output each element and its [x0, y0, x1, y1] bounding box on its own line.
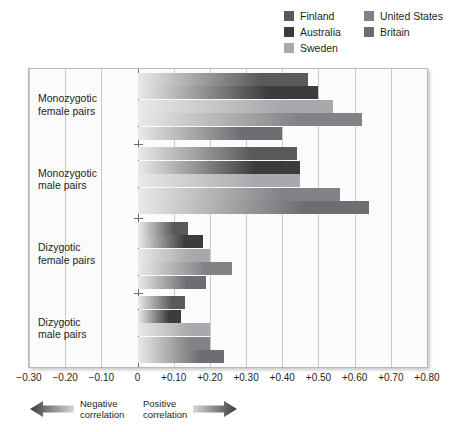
x-tick-label: +0.60 [342, 372, 367, 383]
legend-label: United States [380, 11, 443, 21]
x-tick-label: +0.20 [197, 372, 222, 383]
bar-finland-0 [138, 73, 308, 86]
category-label-line: Monozygotic [38, 167, 130, 180]
category-label-3: Dizygoticmale pairs [38, 316, 130, 341]
bar-finland-2 [138, 222, 189, 235]
positive-correlation-annotation: Positive correlation [143, 398, 237, 420]
x-tick-label: 0 [135, 372, 141, 383]
left-arrow-icon [30, 400, 74, 418]
group-separator-tick [134, 144, 143, 145]
negative-correlation-text: Negative correlation [80, 398, 124, 420]
x-tick-label: +0.50 [306, 372, 331, 383]
category-label-line: male pairs [38, 328, 130, 341]
bar-united-states-0 [138, 113, 362, 126]
legend-swatch-icon [364, 11, 374, 21]
legend-item-britain: Britain [364, 24, 451, 40]
legend-label: Australia [300, 27, 341, 37]
legend-item-sweden: Sweden [284, 40, 350, 56]
bar-australia-3 [138, 310, 181, 323]
x-tick-label: +0.10 [161, 372, 186, 383]
category-label-line: male pairs [38, 179, 130, 192]
legend-item-united-states: United States [364, 8, 451, 24]
bar-britain-2 [138, 276, 207, 289]
bar-united-states-2 [138, 262, 232, 275]
category-label-line: Dizygotic [38, 241, 130, 254]
legend-label: Britain [380, 27, 410, 37]
negative-correlation-annotation: Negative correlation [30, 398, 124, 420]
category-label-2: Dizygoticfemale pairs [38, 241, 130, 266]
x-tick-label: −0.10 [89, 372, 114, 383]
bar-australia-1 [138, 161, 301, 174]
x-tick-label: +0.40 [270, 372, 295, 383]
bar-finland-3 [138, 296, 185, 309]
bar-britain-3 [138, 350, 225, 363]
bar-sweden-0 [138, 100, 333, 113]
legend-item-finland: Finland [284, 8, 350, 24]
bar-sweden-3 [138, 323, 210, 336]
category-label-line: female pairs [38, 105, 130, 118]
group-separator-tick [134, 293, 143, 294]
right-arrow-icon [193, 400, 237, 418]
category-label-1: Monozygoticmale pairs [38, 167, 130, 192]
category-label-0: Monozygoticfemale pairs [38, 92, 130, 117]
bar-united-states-3 [138, 337, 210, 350]
gridline [29, 69, 30, 367]
bar-sweden-1 [138, 174, 301, 187]
category-label-line: Dizygotic [38, 316, 130, 329]
x-tick-label: +0.80 [414, 372, 439, 383]
legend-label: Finland [300, 11, 334, 21]
chart-legend: FinlandUnited StatesAustraliaBritainSwed… [284, 8, 451, 56]
category-label-line: Monozygotic [38, 92, 130, 105]
legend-item-australia: Australia [284, 24, 350, 40]
legend-swatch-icon [364, 27, 374, 37]
x-tick-label: +0.30 [233, 372, 258, 383]
positive-correlation-text: Positive correlation [143, 398, 187, 420]
bar-finland-1 [138, 147, 297, 160]
legend-label: Sweden [300, 43, 338, 53]
bar-australia-2 [138, 235, 203, 248]
bar-sweden-2 [138, 249, 210, 262]
x-tick-label: +0.70 [378, 372, 403, 383]
bar-united-states-1 [138, 188, 341, 201]
bar-britain-0 [138, 127, 283, 140]
group-separator-tick [134, 218, 143, 219]
gridline [391, 69, 392, 367]
legend-swatch-icon [284, 11, 294, 21]
x-tick-label: −0.20 [53, 372, 78, 383]
bar-britain-1 [138, 201, 370, 214]
bar-australia-0 [138, 86, 319, 99]
x-tick-label: −0.30 [16, 372, 41, 383]
legend-swatch-icon [284, 27, 294, 37]
legend-swatch-icon [284, 43, 294, 53]
category-label-line: female pairs [38, 254, 130, 267]
